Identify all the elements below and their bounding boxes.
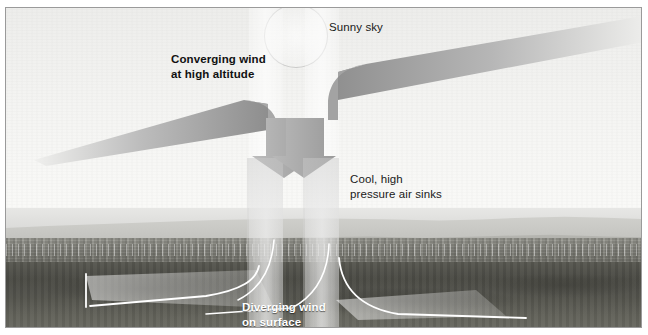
diagram-frame: Converging wind at high altitude Sunny s…: [5, 7, 642, 328]
label-cool-high-pressure: Cool, high pressure air sinks: [350, 172, 442, 201]
diagram-figure: Converging wind at high altitude Sunny s…: [0, 0, 648, 335]
label-converging-wind: Converging wind at high altitude: [171, 52, 266, 81]
sinking-air-column-right: [305, 8, 339, 328]
label-diverging-wind: Diverging wind on surface: [242, 300, 326, 328]
label-sunny-sky: Sunny sky: [329, 20, 383, 35]
